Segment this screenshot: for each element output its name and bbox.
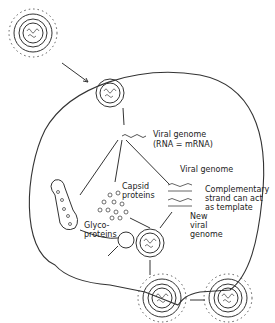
label-complementary: Complementary: [205, 186, 269, 194]
label-glyco-proteins: proteins: [84, 231, 117, 239]
label-viral: viral: [190, 222, 207, 230]
label-genome: genome: [190, 231, 223, 239]
free-virus-icon: [9, 9, 57, 57]
complementary-strands-icon: [168, 184, 192, 207]
glycoprotein-vesicle: [118, 232, 134, 248]
endoplasmic-reticulum: [51, 180, 78, 230]
label-as-template: as template: [205, 204, 253, 212]
assembled-capsid-icon: [136, 229, 164, 257]
label-rna-mrna: (RNA = mRNA): [153, 141, 213, 149]
label-new: New: [190, 213, 207, 221]
label-glyco: Glyco-: [84, 222, 109, 230]
label-capsid: Capsid: [122, 183, 149, 191]
diagram-canvas: [0, 0, 275, 323]
label-proteins: proteins: [122, 192, 155, 200]
uncoating-capsid-icon: [96, 79, 124, 107]
label-viral-genome-2: Viral genome: [180, 166, 233, 174]
budding-virus-icon: [138, 274, 186, 322]
label-viral-genome: Viral genome: [153, 131, 206, 139]
entry-arrow: [62, 63, 88, 82]
label-strand-can-act: strand can act: [205, 195, 263, 203]
released-virus-icon: [204, 274, 252, 322]
viral-genome-icon: [122, 135, 146, 138]
